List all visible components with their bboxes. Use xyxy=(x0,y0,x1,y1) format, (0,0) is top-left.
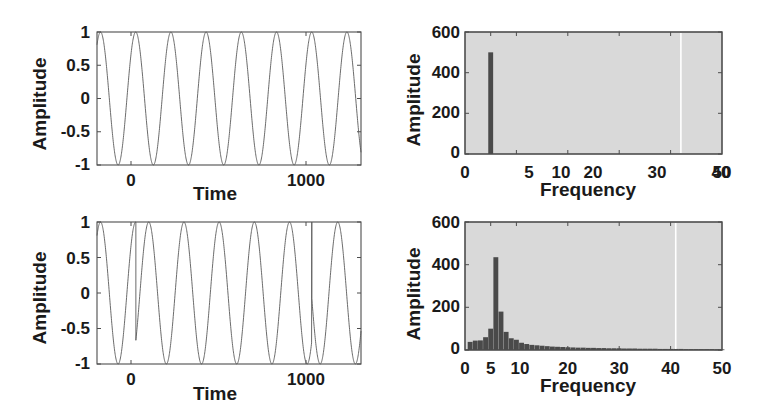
x-axis-title: Time xyxy=(193,383,237,404)
spectrum-bar xyxy=(504,332,509,350)
y-tick-label: 600 xyxy=(432,213,460,232)
x-tick-label: 30 xyxy=(648,163,667,182)
y-tick-label: 0 xyxy=(81,284,90,303)
y-tick-label: -0.5 xyxy=(61,319,90,338)
panel-top-left-signal: Amplitude 1 0.5 0 -0.5 -1 0 1000 Time xyxy=(0,0,383,202)
spectrum-bar xyxy=(478,340,483,350)
y-tick-label: -1 xyxy=(75,354,90,373)
x-tick-label: 5 xyxy=(486,359,495,378)
y-tick-label: 1 xyxy=(81,23,90,42)
y-tick-label: 600 xyxy=(432,23,460,42)
top-left-signal-svg: Amplitude 1 0.5 0 -0.5 -1 0 1000 Time xyxy=(0,0,383,202)
y-axis-title: Amplitude xyxy=(403,248,424,341)
y-tick-label: -0.5 xyxy=(61,122,90,141)
spectrum-bar xyxy=(483,337,488,350)
panel-top-right-spectrum: Amplitude 600 400 200 0 0 5 10 20 30 40 … xyxy=(383,0,765,202)
y-tick-label: 0.5 xyxy=(66,56,90,75)
axes-frame xyxy=(97,32,361,165)
y-axis-title: Amplitude xyxy=(29,58,50,151)
x-tick-label: 40 xyxy=(661,359,680,378)
spectrum-bar xyxy=(540,346,545,350)
y-tick-label: 200 xyxy=(432,103,460,122)
bottom-left-signal-svg: Amplitude 1 0.5 0 -0.5 -1 0 1000 Time xyxy=(0,202,383,404)
y-axis-title: Amplitude xyxy=(403,54,424,147)
figure-canvas: Amplitude 1 0.5 0 -0.5 -1 0 1000 Time xyxy=(0,0,765,404)
spectrum-bar xyxy=(535,345,540,350)
spectrum-bar xyxy=(468,342,473,350)
spectrum-bar xyxy=(499,312,504,350)
spectrum-bar xyxy=(488,52,493,154)
spectrum-bar xyxy=(519,343,524,350)
top-right-spectrum-svg: Amplitude 600 400 200 0 0 5 10 20 30 40 … xyxy=(383,0,765,202)
x-tick-label: 0 xyxy=(126,171,135,190)
spectrum-bar xyxy=(473,341,478,350)
x-axis-title: Time xyxy=(193,183,237,202)
spectrum-bar xyxy=(545,346,550,350)
x-axis-title: Frequency xyxy=(540,375,637,396)
plot-area xyxy=(465,32,722,154)
plot-area xyxy=(97,222,361,364)
plot-area xyxy=(97,32,361,165)
x-tick-label: 5 xyxy=(524,163,533,182)
x-tick-label: 10 xyxy=(511,359,530,378)
x-tick-label: 1000 xyxy=(287,171,325,190)
x-tick-label: 0 xyxy=(126,370,135,389)
x-axis-title: Frequency xyxy=(540,179,637,200)
y-tick-label: 0.5 xyxy=(66,249,90,268)
y-tick-label: 200 xyxy=(432,297,460,316)
bottom-right-spectrum-svg: Amplitude 600 400 200 0 0 5 10 20 30 40 … xyxy=(383,202,765,404)
panel-bottom-left-signal: Amplitude 1 0.5 0 -0.5 -1 0 1000 Time xyxy=(0,202,383,404)
x-tick-label: 50 xyxy=(713,163,732,182)
x-tick-label: 0 xyxy=(460,163,469,182)
y-tick-label: -1 xyxy=(75,155,90,174)
axes-frame xyxy=(465,222,722,350)
y-tick-label: 0 xyxy=(81,89,90,108)
x-tick-label: 1000 xyxy=(287,370,325,389)
panel-bottom-right-spectrum: Amplitude 600 400 200 0 0 5 10 20 30 40 … xyxy=(383,202,765,404)
spectrum-bar xyxy=(509,338,514,350)
plot-area xyxy=(465,222,724,350)
spectrum-bar xyxy=(493,257,498,350)
y-tick-label: 1 xyxy=(81,213,90,232)
axes-frame xyxy=(465,32,722,154)
y-tick-label: 0 xyxy=(451,143,460,162)
y-tick-label: 0 xyxy=(451,339,460,358)
spectrum-bar xyxy=(529,345,534,350)
axes-frame xyxy=(97,222,361,364)
y-tick-label: 400 xyxy=(432,255,460,274)
y-tick-label: 400 xyxy=(432,63,460,82)
spectrum-bar xyxy=(524,344,529,350)
bar-group xyxy=(488,52,493,154)
x-tick-label: 50 xyxy=(713,359,732,378)
y-axis-title: Amplitude xyxy=(29,252,50,345)
x-tick-label: 0 xyxy=(460,359,469,378)
